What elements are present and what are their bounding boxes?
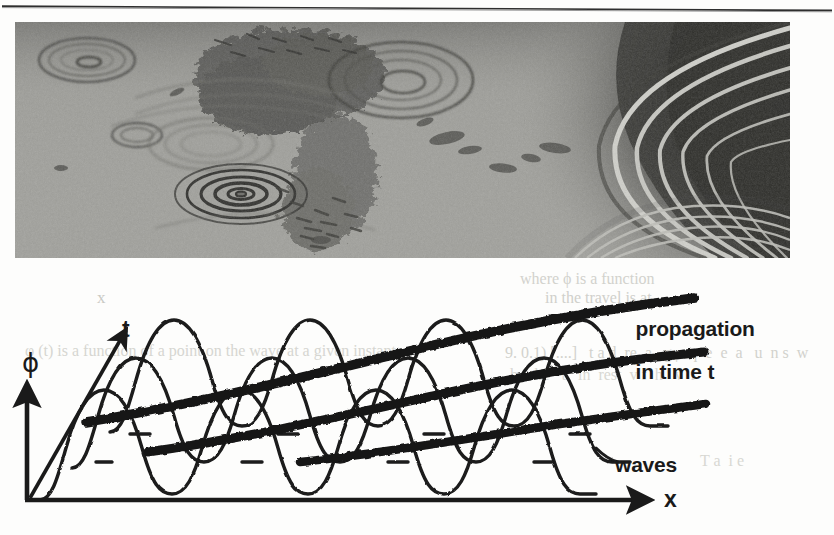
propagation-line-2: in time t bbox=[636, 360, 715, 383]
propagation-line-1: propagation bbox=[636, 317, 755, 340]
t-axis-label: t bbox=[122, 318, 130, 342]
propagation-annotation: propagation in time t bbox=[613, 296, 755, 405]
water-ripples-photo-graphic bbox=[15, 22, 790, 258]
phi-axis-label: ϕ bbox=[22, 350, 39, 377]
wave-curve-t0 bbox=[40, 390, 596, 500]
water-ripples-photo bbox=[15, 22, 790, 258]
x-axis-label: x bbox=[664, 488, 677, 512]
waves-annotation: waves bbox=[615, 454, 677, 476]
scanned-page: x where ϕ is a function in the travel is… bbox=[0, 0, 834, 535]
page-top-rule bbox=[0, 3, 834, 17]
wave-curve-t2 bbox=[110, 320, 668, 432]
